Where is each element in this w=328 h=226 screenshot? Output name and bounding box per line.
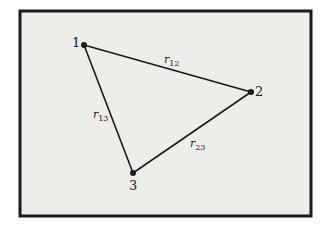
vertex-3-label: 3 <box>129 178 137 193</box>
vertex-1-label: 1 <box>72 35 80 50</box>
vertex-2-dot <box>248 89 254 95</box>
diagram-frame <box>20 11 311 216</box>
vertex-2-label: 2 <box>255 84 263 99</box>
triangle-diagram: 1 2 3 r12 r13 r23 <box>0 0 328 226</box>
vertex-1-dot <box>81 42 87 48</box>
vertex-3-dot <box>130 170 136 176</box>
